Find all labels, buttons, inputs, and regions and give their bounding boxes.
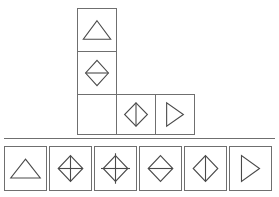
matrix-cell — [77, 51, 117, 95]
diamond-quadrants-icon — [50, 147, 91, 190]
option-6[interactable] — [229, 146, 272, 191]
option-5[interactable] — [184, 146, 227, 191]
answer-options — [0, 146, 279, 194]
diamond-horizontal-line-icon — [140, 147, 181, 190]
triangle-up-icon — [78, 9, 116, 51]
matrix-cell — [116, 94, 156, 135]
matrix-cell-empty — [77, 94, 117, 135]
option-2[interactable] — [49, 146, 92, 191]
triangle-up-icon — [5, 147, 46, 190]
matrix-cell — [77, 8, 117, 52]
triangle-right-icon — [156, 95, 194, 134]
section-divider — [4, 138, 275, 139]
puzzle-root — [0, 0, 279, 197]
triangle-right-icon — [230, 147, 271, 190]
matrix-grid — [0, 0, 279, 136]
option-3[interactable] — [94, 146, 137, 191]
diamond-vertical-line-icon — [185, 147, 226, 190]
diamond-cross-icon — [95, 147, 136, 190]
diamond-horizontal-line-icon — [78, 52, 116, 94]
option-1[interactable] — [4, 146, 47, 191]
matrix-cell — [155, 94, 195, 135]
option-4[interactable] — [139, 146, 182, 191]
diamond-vertical-line-icon — [117, 95, 155, 134]
